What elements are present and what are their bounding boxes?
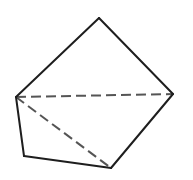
dashed-edge-left-right (16, 94, 173, 97)
diagram-canvas (0, 0, 193, 180)
solid-edge-top-right (99, 18, 173, 94)
polyhedron-figure (0, 0, 193, 180)
solid-edge-right-bottom (111, 94, 173, 168)
solid-edge-top-left (16, 18, 99, 97)
solid-edge-bottom_left-left (16, 97, 24, 156)
solid-edge-bottom-bottom_left (24, 156, 111, 168)
